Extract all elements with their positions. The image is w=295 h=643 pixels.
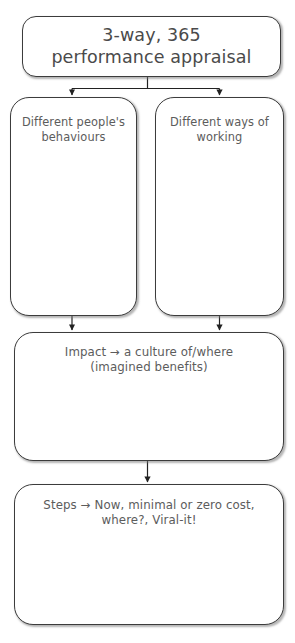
diagram-canvas: 3-way, 365 performance appraisal Differe…: [0, 0, 295, 643]
node-different-ways-of-working: Different ways of working: [155, 97, 284, 316]
node-title-label: 3-way, 365 performance appraisal: [51, 25, 251, 68]
node-impact: Impact → a culture of/where (imagined be…: [14, 332, 284, 461]
node-impact-label: Impact → a culture of/where (imagined be…: [15, 345, 283, 375]
node-different-ways-of-working-label: Different ways of working: [156, 115, 283, 144]
node-different-peoples-behaviours-label: Different people's behaviours: [11, 115, 136, 144]
node-steps-label: Steps → Now, minimal or zero cost, where…: [15, 498, 283, 528]
node-different-peoples-behaviours: Different people's behaviours: [10, 97, 137, 316]
node-steps: Steps → Now, minimal or zero cost, where…: [14, 484, 284, 625]
node-title: 3-way, 365 performance appraisal: [22, 16, 281, 77]
